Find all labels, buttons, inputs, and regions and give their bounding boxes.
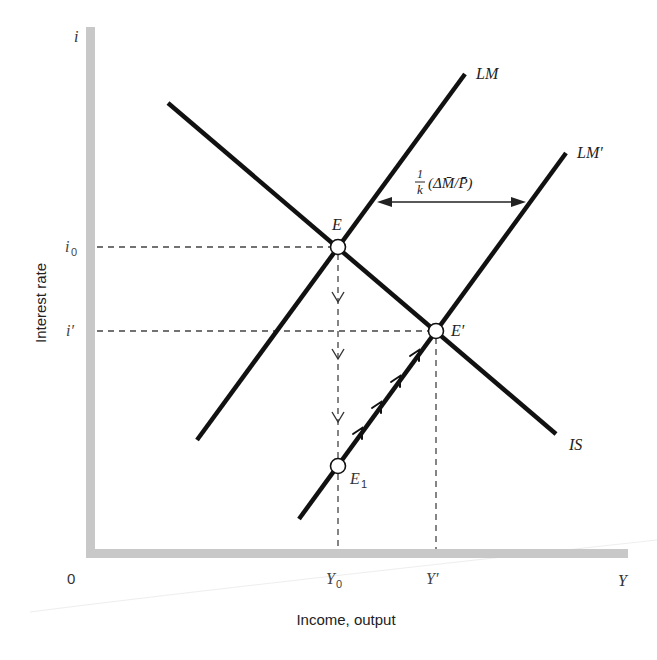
shift-annotation: 1 k (ΔM̄/P̄) bbox=[415, 167, 473, 197]
point-E1 bbox=[331, 459, 346, 474]
fraction-expression: (ΔM̄/P̄) bbox=[428, 175, 473, 192]
point-E bbox=[331, 240, 346, 255]
y-axis bbox=[86, 27, 95, 558]
label-E1-main: E bbox=[349, 470, 360, 487]
y-axis-symbol: i bbox=[74, 28, 78, 45]
point-E-prime bbox=[429, 324, 444, 339]
label-lm: LM bbox=[475, 65, 500, 82]
tick-Y0: Y 0 bbox=[326, 570, 342, 590]
is-lm-diagram: i Y 0 Interest rate Income, output i 0 i… bbox=[0, 0, 657, 660]
x-axis-symbol: Y bbox=[618, 572, 629, 589]
x-axis-title: Income, output bbox=[296, 611, 396, 628]
x-axis bbox=[86, 549, 628, 558]
origin-label: 0 bbox=[67, 570, 75, 587]
arrow-left-icon bbox=[377, 197, 392, 207]
lm-curve bbox=[197, 74, 465, 440]
is-curve bbox=[168, 103, 556, 434]
label-E-prime: E′ bbox=[450, 322, 465, 339]
tick-i0: i 0 bbox=[65, 238, 77, 258]
tick-Y0-subscript: 0 bbox=[336, 578, 342, 590]
tick-i0-subscript: 0 bbox=[71, 246, 77, 258]
tick-Y-prime: Y′ bbox=[426, 570, 439, 587]
adjustment-path-arrows bbox=[353, 350, 419, 439]
fraction-numerator: 1 bbox=[417, 167, 423, 181]
tick-i-prime: i′ bbox=[66, 322, 74, 339]
fraction-denominator: k bbox=[417, 182, 423, 197]
label-E1: E 1 bbox=[349, 470, 367, 490]
y-axis-title: Interest rate bbox=[32, 263, 49, 343]
label-E1-subscript: 1 bbox=[361, 478, 367, 490]
arrow-right-icon bbox=[511, 197, 526, 207]
label-E: E bbox=[331, 216, 342, 233]
label-lm-prime: LM′ bbox=[576, 144, 603, 161]
tick-i0-label: i bbox=[65, 238, 69, 255]
label-is: IS bbox=[568, 436, 582, 453]
